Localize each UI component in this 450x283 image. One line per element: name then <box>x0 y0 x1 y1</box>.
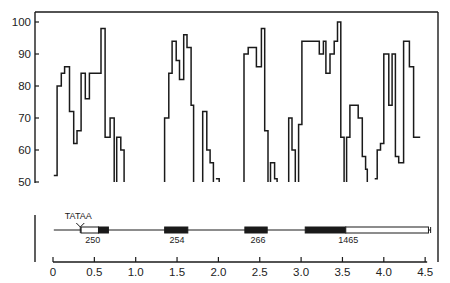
y-tick-label: 50 <box>18 176 31 188</box>
tataa-label: TATAA <box>65 211 92 221</box>
plot-trace <box>54 22 420 182</box>
x-tick-label: 2.0 <box>210 266 226 278</box>
y-tick-label: 60 <box>18 144 31 156</box>
x-tick-label: 1.5 <box>169 266 185 278</box>
exon <box>305 227 346 233</box>
x-axis: 00.51.01.52.02.53.03.54.04.5 <box>50 257 433 278</box>
trace-segment <box>165 35 194 182</box>
exon <box>98 227 108 233</box>
x-tick-label: 0 <box>50 266 56 278</box>
x-tick-label: 3.0 <box>293 266 309 278</box>
exon <box>165 227 188 233</box>
exon <box>245 227 267 233</box>
x-tick-label: 2.5 <box>252 266 268 278</box>
x-tick-label: 1.0 <box>128 266 144 278</box>
trace-segment <box>375 41 421 179</box>
frame <box>35 12 438 262</box>
trace-segment <box>216 179 219 182</box>
y-tick-label: 90 <box>18 48 31 60</box>
exon <box>81 227 98 233</box>
exon-size-label: 1465 <box>338 235 358 245</box>
trace-segment <box>54 28 114 182</box>
trace-segment <box>117 137 124 182</box>
trace-segment <box>299 22 345 182</box>
exon-size-label: 254 <box>170 235 185 245</box>
exon <box>346 227 429 233</box>
y-tick-label: 70 <box>18 112 31 124</box>
exon-size-label: 266 <box>251 235 266 245</box>
x-tick-label: 3.5 <box>334 266 350 278</box>
x-tick-label: 0.5 <box>86 266 102 278</box>
y-tick-label: 80 <box>18 80 31 92</box>
trace-segment <box>347 105 368 182</box>
figure: 5060708090100 00.51.01.52.02.53.03.54.04… <box>0 0 450 283</box>
x-tick-label: 4.0 <box>376 266 392 278</box>
exon-size-label: 250 <box>85 235 100 245</box>
trace-segment <box>203 112 214 182</box>
x-tick-label: 4.5 <box>417 266 433 278</box>
trace-segment <box>244 28 268 182</box>
trace-segment <box>289 118 296 182</box>
gene-map: 2502542661465TATAA <box>54 211 431 245</box>
y-tick-label: 100 <box>12 16 31 28</box>
trace-segment <box>271 163 278 182</box>
